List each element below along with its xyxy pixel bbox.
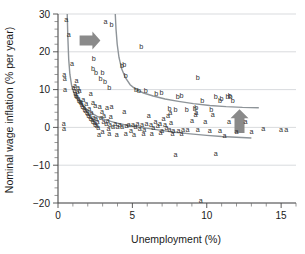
data-point-a: a	[64, 15, 68, 24]
data-point-a: a	[122, 107, 126, 116]
data-point-b: b	[231, 96, 235, 105]
data-point-b: b	[144, 86, 148, 95]
data-point-b: b	[107, 83, 111, 92]
data-point-b: b	[196, 73, 200, 82]
data-point-a: a	[223, 131, 227, 140]
data-point-a: a	[235, 127, 239, 136]
data-point-a: a	[249, 127, 253, 136]
data-point-b: b	[98, 74, 102, 83]
data-point-a: a	[284, 125, 288, 134]
data-point-b: b	[154, 89, 158, 98]
data-point-a: a	[214, 149, 218, 158]
y-tick-label--20: −20	[33, 198, 50, 209]
data-point-a: a	[243, 117, 247, 126]
data-point-a: a	[171, 129, 175, 138]
data-point-b: b	[209, 105, 213, 114]
data-point-a: a	[104, 17, 108, 26]
data-point-a: a	[199, 196, 203, 205]
data-point-a: a	[208, 126, 212, 135]
data-point-a: a	[109, 112, 113, 121]
data-point-a: a	[185, 125, 189, 134]
data-point-b: b	[194, 103, 198, 112]
data-point-a: a	[218, 126, 222, 135]
data-point-a: a	[107, 129, 111, 138]
data-point-b: b	[103, 77, 107, 86]
data-point-a: a	[174, 150, 178, 159]
data-point-a: a	[110, 102, 114, 111]
data-point-a: a	[132, 130, 136, 139]
data-point-b: b	[185, 105, 189, 114]
data-point-a: a	[196, 125, 200, 134]
y-tick-label-20: 20	[39, 46, 51, 57]
data-point-a: a	[101, 127, 105, 136]
data-point-b: b	[137, 86, 141, 95]
data-point-b: b	[94, 68, 98, 77]
data-point-a: a	[159, 128, 163, 137]
data-point-a: a	[147, 111, 151, 120]
data-point-a: a	[101, 117, 105, 126]
y-tick-label--10: −10	[33, 160, 50, 171]
data-point-a: a	[227, 117, 231, 126]
data-point-b: b	[110, 20, 114, 29]
y-axis-title: Nominal wage inflation (% per year)	[3, 27, 15, 193]
data-point-b: b	[214, 92, 218, 101]
data-point-a: a	[63, 74, 67, 83]
data-point-a: a	[105, 103, 109, 112]
data-point-b: b	[139, 42, 143, 51]
x-tick-label-15: 15	[276, 210, 288, 221]
y-tick-label-30: 30	[39, 9, 51, 20]
data-point-b: b	[200, 96, 204, 105]
data-point-a: a	[142, 129, 146, 138]
horizontal-shift-arrow	[80, 32, 101, 50]
data-point-b: b	[174, 105, 178, 114]
data-point-a: a	[150, 129, 154, 138]
x-tick-label-5: 5	[130, 210, 136, 221]
data-point-b: b	[218, 96, 222, 105]
data-point-a: a	[70, 59, 74, 68]
data-point-b: b	[168, 104, 172, 113]
x-tick-label-10: 10	[201, 210, 213, 221]
data-point-a: a	[279, 125, 283, 134]
data-point-a: a	[93, 101, 97, 110]
data-point-b: b	[124, 71, 128, 80]
phillips-curve-figure: aaaaaaaaaaaaaaaaaaaaaaaaaaaaaaaaaaaaaaaa…	[0, 0, 305, 254]
y-tick-label-10: 10	[39, 84, 51, 95]
data-point-a: a	[67, 30, 71, 39]
data-point-a: a	[203, 117, 207, 126]
data-point-b: b	[180, 91, 184, 100]
data-point-a: a	[124, 129, 128, 138]
data-point-b: b	[122, 60, 126, 69]
data-point-a: a	[62, 124, 66, 133]
x-tick-label-0: 0	[55, 210, 61, 221]
data-point-a: a	[115, 130, 119, 139]
scatter-plot-svg: aaaaaaaaaaaaaaaaaaaaaaaaaaaaaaaaaaaaaaaa…	[0, 0, 305, 254]
data-point-a: a	[63, 85, 67, 94]
y-tick-label-0: 0	[44, 122, 50, 133]
data-point-a: a	[75, 76, 79, 85]
tick-labels-group: 051015−20−100102030	[33, 9, 287, 221]
data-point-a: a	[261, 124, 265, 133]
data-point-b: b	[92, 54, 96, 63]
data-point-a: a	[180, 129, 184, 138]
data-point-b: b	[159, 88, 163, 97]
x-axis-title: Unemployment (%)	[131, 233, 221, 245]
